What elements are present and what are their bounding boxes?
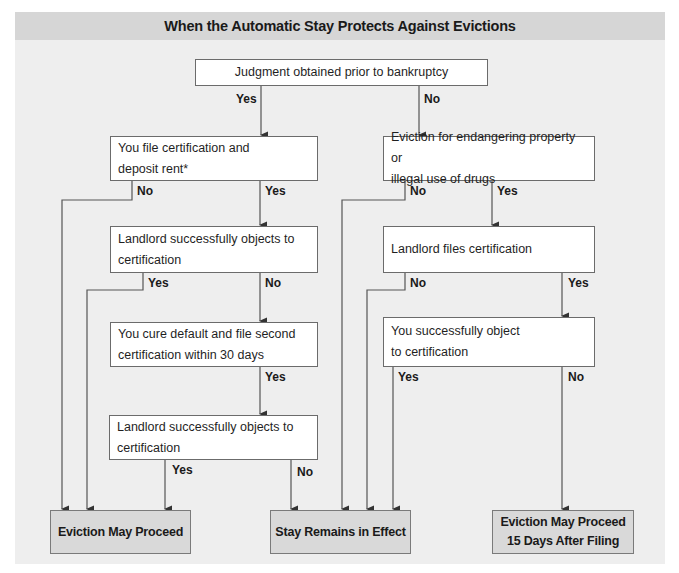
node-label-line2: to certification: [391, 342, 520, 363]
edge-label-file-cert-yes: Yes: [265, 184, 286, 198]
node-eviction-endangering-property: Eviction for endangering property or ill…: [383, 136, 595, 181]
outcome-label: Stay Remains in Effect: [275, 523, 405, 542]
edge-label-endangering-no: No: [410, 184, 426, 198]
node-label-line2: certification: [118, 250, 294, 271]
node-label: Landlord files certification: [391, 239, 532, 260]
outcome-eviction-may-proceed: Eviction May Proceed: [50, 510, 191, 554]
node-label-line1: You cure default and file second: [118, 324, 295, 345]
edge-label-landlord-objects-1-no: No: [265, 276, 281, 290]
node-label: Judgment obtained prior to bankruptcy: [235, 62, 448, 83]
node-label-line2: certification within 30 days: [118, 345, 295, 366]
edge-label-judgment-no: No: [424, 92, 440, 106]
node-label-line1: Eviction for endangering property or: [391, 127, 587, 169]
node-cure-default-second-certification: You cure default and file second certifi…: [110, 322, 318, 367]
node-label-line1: Landlord successfully objects to: [117, 417, 293, 438]
node-label-line2: deposit rent*: [118, 159, 250, 180]
edge-label-file-cert-no: No: [137, 184, 153, 198]
edge-label-landlord-objects-2-yes: Yes: [172, 463, 193, 477]
edge-label-cure-default-yes: Yes: [265, 370, 286, 384]
outcome-label-line2: 15 Days After Filing: [500, 532, 625, 551]
outcome-stay-remains-in-effect: Stay Remains in Effect: [270, 510, 411, 554]
edge-label-judgment-yes: Yes: [236, 92, 257, 106]
edge-label-landlord-files-yes: Yes: [568, 276, 589, 290]
edge-label-landlord-objects-2-no: No: [297, 465, 313, 479]
node-label-line1: You file certification and: [118, 138, 250, 159]
node-file-certification-deposit-rent: You file certification and deposit rent*: [110, 136, 318, 181]
diagram-header: When the Automatic Stay Protects Against…: [15, 12, 665, 40]
edge-label-you-object-no: No: [568, 370, 584, 384]
outcome-label-line1: Eviction May Proceed: [500, 513, 625, 532]
diagram-title: When the Automatic Stay Protects Against…: [164, 18, 516, 34]
edge-label-landlord-files-no: No: [410, 276, 426, 290]
node-you-successfully-object: You successfully object to certification: [383, 317, 595, 367]
node-judgment-prior-to-bankruptcy: Judgment obtained prior to bankruptcy: [195, 59, 488, 86]
node-landlord-objects-first: Landlord successfully objects to certifi…: [110, 226, 318, 273]
outcome-label: Eviction May Proceed: [58, 523, 183, 542]
edge-label-endangering-yes: Yes: [497, 184, 518, 198]
node-label-line1: Landlord successfully objects to: [118, 229, 294, 250]
node-label-line1: You successfully object: [391, 321, 520, 342]
outcome-eviction-after-15-days: Eviction May Proceed 15 Days After Filin…: [492, 510, 634, 554]
node-landlord-files-certification: Landlord files certification: [383, 226, 595, 273]
edge-label-landlord-objects-1-yes: Yes: [148, 276, 169, 290]
node-label-line2: certification: [117, 438, 293, 459]
edge-label-you-object-yes: Yes: [398, 370, 419, 384]
node-landlord-objects-second: Landlord successfully objects to certifi…: [109, 415, 318, 460]
